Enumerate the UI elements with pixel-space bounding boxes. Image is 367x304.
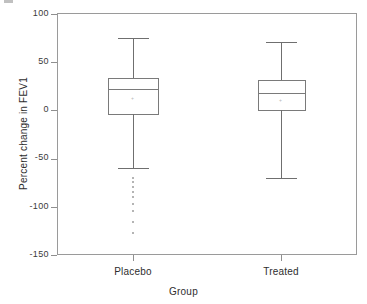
y-tick-label-neg150: -150 bbox=[9, 250, 49, 259]
x-axis-title: Group bbox=[0, 286, 367, 297]
y-axis-title: Percent change in FEV1 bbox=[18, 49, 29, 219]
placebo-outlier bbox=[132, 177, 134, 179]
scan-artifact bbox=[4, 0, 13, 3]
placebo-median-line bbox=[109, 89, 158, 90]
y-tick-mark-neg150 bbox=[51, 255, 57, 256]
placebo-mean-marker: + bbox=[131, 97, 134, 100]
boxplot-chart: Percent change in FEV1 100 50 0 -50 -100… bbox=[0, 0, 367, 304]
plot-area-frame bbox=[57, 13, 357, 255]
treated-lower-whisker bbox=[281, 110, 282, 178]
placebo-lower-whisker-cap bbox=[118, 168, 149, 169]
treated-lower-whisker-cap bbox=[266, 178, 297, 179]
x-tick-mark-treated bbox=[281, 255, 282, 261]
placebo-outlier bbox=[132, 196, 134, 198]
placebo-upper-whisker bbox=[133, 38, 134, 79]
treated-box bbox=[258, 80, 306, 111]
placebo-outlier bbox=[132, 181, 134, 183]
treated-mean-marker: + bbox=[279, 99, 282, 102]
treated-upper-whisker bbox=[281, 42, 282, 81]
treated-median-line bbox=[259, 93, 305, 94]
placebo-outlier bbox=[132, 232, 134, 234]
placebo-outlier bbox=[132, 186, 134, 188]
placebo-outlier bbox=[132, 221, 134, 223]
y-tick-label-50: 50 bbox=[9, 57, 49, 66]
x-tick-mark-placebo bbox=[133, 255, 134, 261]
placebo-outlier bbox=[132, 210, 134, 212]
placebo-lower-whisker bbox=[133, 114, 134, 168]
y-tick-label-100: 100 bbox=[9, 9, 49, 18]
y-tick-label-0: 0 bbox=[9, 105, 49, 114]
placebo-outlier bbox=[132, 191, 134, 193]
placebo-outlier bbox=[132, 203, 134, 205]
y-tick-label-neg50: -50 bbox=[9, 153, 49, 162]
x-tick-label-treated: Treated bbox=[221, 266, 341, 277]
y-tick-label-neg100: -100 bbox=[9, 202, 49, 211]
x-tick-label-placebo: Placebo bbox=[73, 266, 193, 277]
